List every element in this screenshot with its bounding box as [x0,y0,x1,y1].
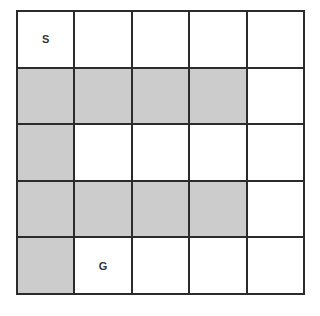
grid-cell [248,182,305,239]
wall-cell [190,182,247,239]
grid-cell [248,12,305,69]
wall-cell [18,182,75,239]
grid-cell [75,12,132,69]
wall-cell [18,69,75,126]
wall-cell [190,69,247,126]
grid-cell [190,238,247,295]
grid-cell [248,69,305,126]
start-cell: S [18,12,75,69]
goal-cell: G [75,238,132,295]
grid-cell [248,125,305,182]
grid-cell [190,12,247,69]
grid-cell [133,12,190,69]
wall-cell [75,182,132,239]
grid-cell [75,125,132,182]
wall-cell [133,182,190,239]
grid-cell [133,238,190,295]
wall-cell [18,238,75,295]
grid-cell [190,125,247,182]
wall-cell [133,69,190,126]
grid-cell [133,125,190,182]
grid-cell [248,238,305,295]
wall-cell [75,69,132,126]
wall-cell [18,125,75,182]
maze-grid: SG [16,10,305,295]
